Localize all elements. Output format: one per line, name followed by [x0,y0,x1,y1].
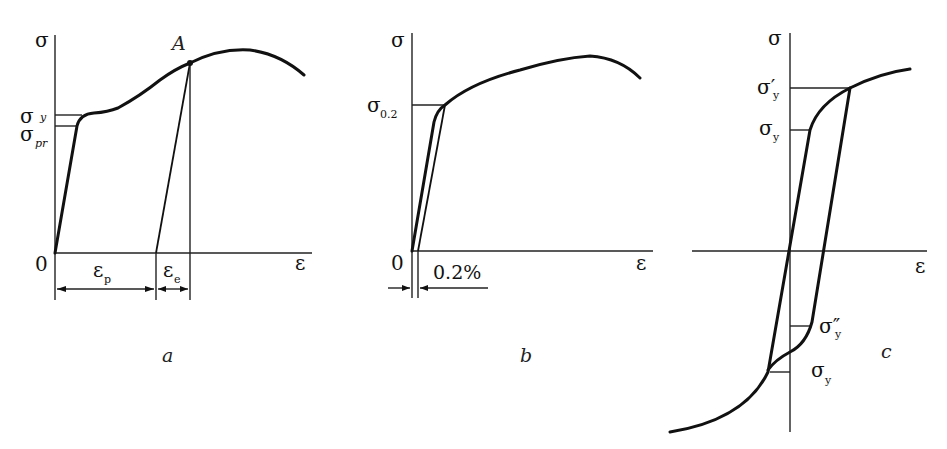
arrow-right-icon [180,286,188,292]
panel-a-sigma-pr-subscript: pr [35,137,48,150]
panel-c-sigma-y-double-prime-subscript: y [834,328,842,341]
panel-b-caption: b [520,344,532,366]
panel-b-sigma-02-label: σ [367,93,381,117]
panel-a-caption: a [162,344,173,366]
arrow-left-icon [57,286,66,292]
panel-c-sigma-y-lower-subscript: y [824,374,832,387]
arrow-right-icon [402,285,410,291]
panel-c-epsilon-label: ε [915,254,925,278]
panel-a-stress-strain-curve [55,50,304,253]
panel-b-offset-label: 0.2% [433,261,481,283]
panel-b-sigma-02-subscript: 0.2 [380,108,398,121]
panel-b-epsilon-label: ε [636,251,646,275]
panel-c-sigma-y-lower-label: σ [811,358,825,382]
panel-b-stress-strain-curve [412,56,640,251]
panel-a-point-a-marker [187,60,193,66]
panel-a-ee-label: ε [163,258,173,282]
panel-c-caption: c [881,340,892,362]
arrow-right-icon [145,286,154,292]
panel-a-epsilon-label: ε [295,251,305,275]
arrow-left-icon [158,286,166,292]
panel-b-offset-line [418,105,445,251]
stress-strain-figure: σ ε 0 A σ y σ pr ε p ε e a σ ε 0 σ 0.2 0… [0,0,947,449]
panel-c-sigma-y-label: σ [759,116,773,140]
panel-b: σ ε 0 σ 0.2 0.2% b [367,28,653,366]
panel-c-sigma-y-subscript: y [772,131,780,144]
panel-c-sigma-label: σ [768,26,782,50]
panel-a-sigma-y-subscript: y [39,111,47,124]
panel-a-sigma-label: σ [35,28,49,52]
panel-a-ep-label: ε [93,258,103,282]
panel-c-sigma-y-prime-subscript: y [772,89,780,102]
panel-b-origin-label: 0 [391,251,404,275]
panel-a-sigma-pr-label: σ [20,122,34,146]
panel-a: σ ε 0 A σ y σ pr ε p ε e a [20,28,312,366]
panel-a-ep-subscript: p [104,273,111,286]
panel-a-origin-label: 0 [35,252,48,276]
panel-a-ee-subscript: e [174,273,181,286]
arrow-left-icon [420,285,428,291]
panel-a-unloading-line [156,63,190,253]
panel-b-sigma-label: σ [391,28,405,52]
panel-c: σ ε σ′ y σ y σ″ y σ y c [670,26,927,432]
panel-a-point-a-label: A [170,32,186,54]
